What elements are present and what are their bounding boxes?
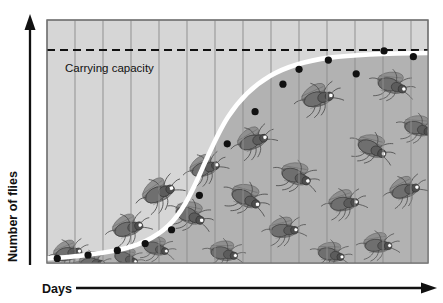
x-axis xyxy=(76,283,437,294)
data-point xyxy=(54,255,61,262)
right-arrow-icon xyxy=(421,283,437,294)
data-point xyxy=(142,240,149,247)
data-point xyxy=(353,70,360,77)
data-point xyxy=(224,140,231,147)
data-point xyxy=(114,247,121,254)
figure-canvas: Carrying capacity Number of flies Days xyxy=(0,0,443,303)
data-point xyxy=(325,57,332,64)
data-point xyxy=(196,192,203,199)
carrying-capacity-label: Carrying capacity xyxy=(65,62,154,74)
population-growth-figure: Carrying capacity Number of flies Days xyxy=(0,0,443,303)
data-point xyxy=(168,226,175,233)
up-arrow-icon xyxy=(25,14,36,30)
y-axis-label: Number of flies xyxy=(6,171,20,262)
data-point xyxy=(295,66,302,73)
y-axis xyxy=(25,14,36,265)
data-point xyxy=(410,53,417,60)
data-point xyxy=(84,251,91,258)
data-point xyxy=(251,108,258,115)
x-axis-label: Days xyxy=(42,282,72,296)
data-point xyxy=(279,81,286,88)
data-point xyxy=(380,47,387,54)
